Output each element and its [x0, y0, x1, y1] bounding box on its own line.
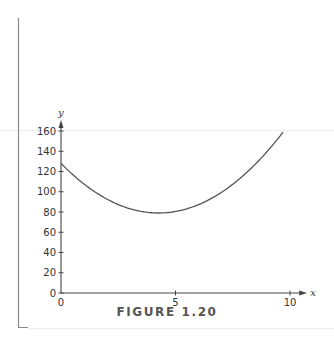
y-tick-label: 80 [43, 207, 56, 218]
figure-caption: FIGURE 1.20 [0, 305, 334, 319]
y-tick-label: 0 [50, 288, 56, 299]
left-margin-border [19, 18, 29, 328]
y-tick-label: 140 [37, 146, 56, 157]
x-axis-arrow-icon [299, 291, 307, 296]
y-tick-label: 60 [43, 227, 56, 238]
x-axis-label: x [310, 287, 316, 298]
y-tick-label: 100 [37, 186, 56, 197]
y-tick-label: 160 [37, 126, 56, 137]
y-axis-arrow-icon [59, 120, 64, 128]
y-tick-label: 120 [37, 166, 56, 177]
data-curve [61, 132, 283, 213]
y-tick-label: 40 [43, 247, 56, 258]
y-tick-label: 20 [43, 267, 56, 278]
y-axis-label: y [57, 107, 64, 118]
axes: yx0204060801001201401600510 [37, 107, 316, 308]
figure-canvas: yx0204060801001201401600510 [0, 0, 334, 339]
